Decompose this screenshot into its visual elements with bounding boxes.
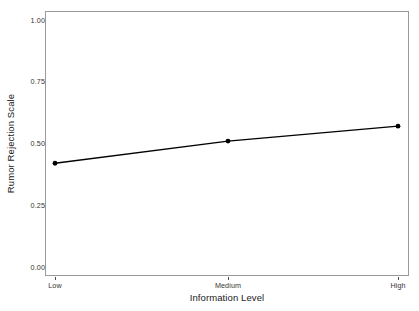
y-tick-label-025: 0.25 [17, 201, 45, 210]
x-tick-label-low: Low [25, 281, 85, 290]
chart-figure: Rumor Rejection Scale 1.00 0.75 0.50 0.2… [0, 0, 419, 311]
y-tick-label-075: 0.75 [17, 77, 45, 86]
data-point-medium [226, 139, 231, 144]
plot-area [45, 11, 409, 276]
line-series [45, 11, 409, 276]
x-axis-title: Information Level [45, 292, 409, 303]
x-tick-label-high: High [368, 281, 419, 290]
x-tick-mark-medium [228, 277, 229, 280]
y-tick-label-050: 0.50 [17, 139, 45, 148]
y-tick-label-000: 0.00 [17, 263, 45, 272]
x-tick-mark-low [55, 277, 56, 280]
x-tick-mark-high [398, 277, 399, 280]
x-tick-label-medium: Medium [198, 281, 258, 290]
y-tick-label-1: 1.00 [17, 16, 45, 25]
data-point-low [53, 161, 58, 166]
series-line-path [55, 126, 398, 163]
data-point-high [396, 124, 401, 129]
y-axis-ticks: 1.00 0.75 0.50 0.25 0.00 [8, 0, 45, 311]
